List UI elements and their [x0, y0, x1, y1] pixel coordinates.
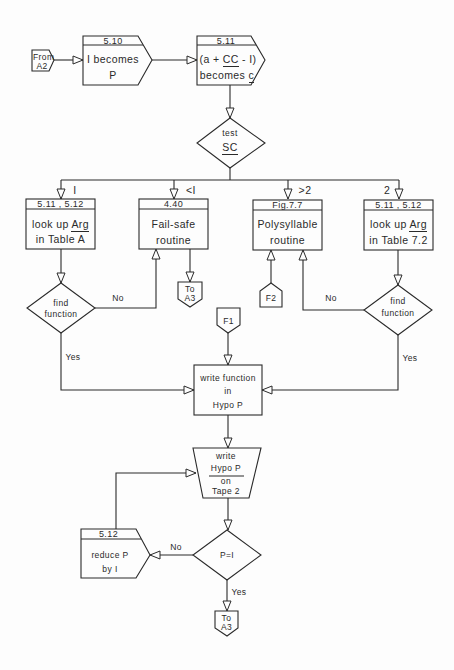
- box-fail-safe-line2: routine: [139, 235, 208, 246]
- box-lookup-a-line2: in Table A: [26, 234, 95, 245]
- box-5-11-cc: CC: [223, 53, 239, 67]
- branch-condition-gt2: >2: [296, 185, 314, 196]
- entry-label-a2: A2: [33, 62, 51, 71]
- box-5-10-line1: I becomes: [83, 54, 143, 65]
- write-function-line3: Hypo P: [194, 401, 262, 410]
- reduce-box-ref: 5.12: [81, 530, 136, 539]
- find-right-line1: find: [373, 297, 423, 306]
- test-sc-sc: SC: [222, 141, 237, 155]
- find-left-line2: function: [36, 310, 86, 319]
- to-a3-lower-line2: A3: [215, 623, 238, 632]
- test-p-label: P=I: [207, 551, 247, 560]
- box-5-11-ref: 5.11: [197, 37, 255, 46]
- test-sc-line2: SC: [210, 142, 250, 153]
- box-lookup-a-line1: look up Arg: [26, 219, 95, 230]
- branch-condition-1: I: [69, 185, 81, 196]
- box-lookup-72-arg: Arg: [409, 218, 427, 232]
- test-sc-line1: test: [210, 129, 250, 138]
- find-left-line1: find: [36, 299, 86, 308]
- box-polysyllable-line2: routine: [253, 235, 322, 246]
- reduce-box-line2: by I: [81, 565, 139, 574]
- write-tape-line2: Hypo P: [203, 464, 249, 473]
- to-a3-upper-line2: A3: [178, 294, 202, 303]
- box-lookup-72-pre: look up: [370, 218, 409, 230]
- branch-condition-2: 2: [381, 185, 393, 196]
- box-lookup-a-ref: 5.11 , 5.12: [26, 200, 95, 209]
- box-5-11-line2: becomes c: [197, 70, 257, 81]
- box-5-11-line1-pre: (a +: [199, 53, 222, 65]
- box-lookup-a-arg: Arg: [71, 218, 89, 232]
- box-5-10-line2: P: [83, 70, 143, 81]
- box-5-10-ref: 5.10: [83, 37, 143, 46]
- connector-f1-label: F1: [217, 317, 240, 326]
- flowchart-canvas: From A2 5.10 I becomes P 5.11 (a + CC - …: [0, 0, 454, 670]
- test-p-no: No: [168, 543, 184, 552]
- box-5-11-line1: (a + CC - I): [197, 54, 259, 65]
- box-polysyllable-ref: Fig.7.7: [253, 201, 322, 210]
- box-lookup-72-ref: 5.11 , 5.12: [364, 201, 433, 210]
- reduce-box-line1: reduce P: [81, 551, 139, 560]
- write-tape-line4: Tape 2: [203, 487, 249, 496]
- box-5-11-c: c: [249, 69, 255, 83]
- test-p-yes: Yes: [230, 588, 248, 597]
- flowchart-lines: [0, 0, 454, 670]
- box-5-11-line1-post: - I): [239, 53, 257, 65]
- write-tape-line3: on: [203, 477, 249, 486]
- find-left-no: No: [110, 294, 126, 303]
- find-right-yes: Yes: [401, 354, 419, 363]
- write-function-line1: write function: [194, 374, 262, 383]
- box-polysyllable-line1: Polysyllable: [253, 219, 322, 230]
- write-function-line2: in: [194, 387, 262, 396]
- find-left-yes: Yes: [64, 353, 82, 362]
- find-right-no: No: [323, 294, 339, 303]
- box-fail-safe-ref: 4.40: [139, 200, 208, 209]
- diamond-find-function-left: [27, 283, 95, 333]
- branch-condition-lt1: <I: [182, 185, 200, 196]
- box-lookup-a-pre: look up: [32, 218, 71, 230]
- find-right-line2: function: [373, 309, 423, 318]
- connector-f2-label: F2: [260, 294, 282, 303]
- box-5-11-line2-pre: becomes: [200, 69, 249, 81]
- box-lookup-72-line1: look up Arg: [364, 219, 433, 230]
- write-tape-line1: write: [203, 452, 249, 461]
- box-lookup-72-line2: in Table 7.2: [364, 235, 433, 246]
- box-fail-safe-line1: Fail-safe: [139, 219, 208, 230]
